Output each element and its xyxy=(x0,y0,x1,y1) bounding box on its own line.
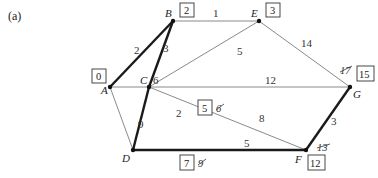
weight-d-f: 5 xyxy=(244,137,250,149)
edge-f-g xyxy=(306,87,350,150)
weight-f-g: 3 xyxy=(331,115,337,127)
node-f xyxy=(304,148,308,152)
node-b xyxy=(171,19,175,23)
node-g xyxy=(348,85,352,89)
weight-a-b: 2 xyxy=(134,44,140,56)
node-a xyxy=(108,85,112,89)
weight-a-d: 9 xyxy=(138,118,144,130)
weight-b-c: 3 xyxy=(163,42,169,54)
distance-g: 15 xyxy=(359,69,370,80)
weight-b-e: 1 xyxy=(213,7,219,19)
distance-a: 0 xyxy=(96,71,101,82)
crossed-distance-d: 9 xyxy=(198,158,204,169)
distance-e: 3 xyxy=(270,5,275,16)
distance-f: 12 xyxy=(310,158,321,169)
node-label-c: C xyxy=(140,74,148,86)
graph-diagram: (a) 2 1 3 5 14 6 12 9 2 8 5 3 A B E C G … xyxy=(0,0,378,178)
edge-a-d xyxy=(110,87,133,150)
node-label-g: G xyxy=(353,88,361,100)
node-label-d: D xyxy=(121,152,130,164)
edge-c-f xyxy=(149,87,306,150)
weight-c-f: 8 xyxy=(259,112,265,124)
node-d xyxy=(131,148,135,152)
weight-c-d: 2 xyxy=(176,107,182,119)
node-label-b: B xyxy=(165,7,172,19)
weight-a-c: 6 xyxy=(153,74,159,86)
node-label-a: A xyxy=(100,84,108,96)
crossed-distance-c: 6 xyxy=(216,103,222,114)
node-c xyxy=(147,85,151,89)
crossed-distance-g: 17 xyxy=(340,65,351,76)
node-e xyxy=(257,19,261,23)
weight-e-g: 14 xyxy=(301,37,313,49)
distance-c: 5 xyxy=(202,103,207,114)
distance-d: 7 xyxy=(184,158,189,169)
node-label-f: F xyxy=(294,153,302,165)
weight-e-c: 5 xyxy=(237,45,243,57)
panel-label: (a) xyxy=(8,9,21,23)
distance-b: 2 xyxy=(184,5,189,16)
edge-e-c xyxy=(149,21,259,87)
weight-c-g: 12 xyxy=(265,74,276,86)
node-label-e: E xyxy=(250,7,258,19)
